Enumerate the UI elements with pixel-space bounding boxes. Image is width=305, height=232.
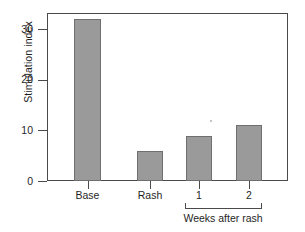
bar-chart-figure: Stimulation index 30 20 10 0 Base Rash 1… — [0, 0, 305, 232]
x-tick-label-base: Base — [58, 190, 118, 202]
bar-rash — [137, 151, 163, 181]
y-tick-mark-0 — [38, 181, 47, 182]
y-tick-mark-10 — [38, 130, 47, 131]
x-tick-mark-rash — [150, 181, 151, 189]
bar-base — [74, 19, 101, 181]
scan-artifact-speck — [210, 120, 212, 122]
y-tick-mark-30 — [38, 29, 47, 30]
y-tick-label-10: 10 — [0, 125, 33, 136]
y-tick-label-0: 0 — [0, 176, 33, 187]
x-tick-mark-base — [88, 181, 89, 189]
y-tick-mark-20 — [38, 80, 47, 81]
bar-week-2 — [236, 125, 262, 181]
x-tick-label-week-2: 2 — [219, 190, 279, 202]
x-tick-mark-week-1 — [199, 181, 200, 189]
group-bracket — [185, 203, 262, 209]
bar-week-1 — [186, 136, 212, 182]
group-bracket-label: Weeks after rash — [163, 212, 283, 224]
y-tick-label-30: 30 — [0, 24, 33, 35]
x-tick-mark-week-2 — [249, 181, 250, 189]
y-axis-title: Stimulation index — [22, 0, 34, 142]
y-tick-label-20: 20 — [0, 74, 33, 85]
